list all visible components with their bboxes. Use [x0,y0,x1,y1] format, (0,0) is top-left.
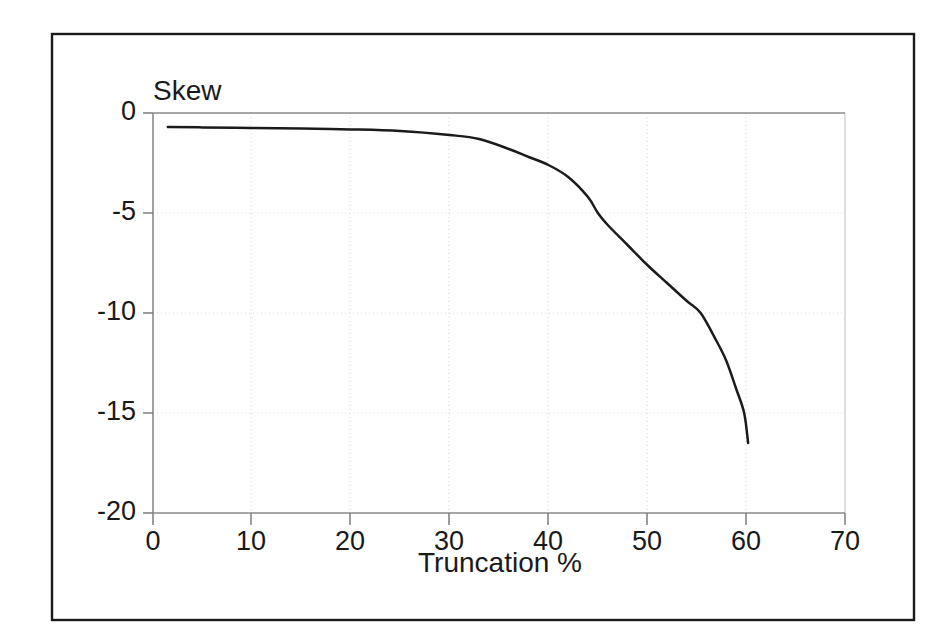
y-axis-ticks [143,113,153,513]
x-tick-label-50: 50 [632,526,662,556]
chart-figure: 0 -5 -10 -15 -20 0 10 20 30 40 50 60 70 … [0,0,952,643]
x-axis-title: Truncation % [418,547,582,578]
x-tick-label-20: 20 [335,526,365,556]
gridlines [153,213,845,413]
x-tick-label-60: 60 [731,526,761,556]
y-tick-labels: 0 -5 -10 -15 -20 [97,96,136,526]
y-tick-label-0: 0 [121,96,136,126]
x-axis-ticks [153,513,845,525]
y-axis-title: Skew [153,75,222,106]
x-tick-label-10: 10 [236,526,266,556]
data-series-line [168,127,748,443]
y-tick-label-minus15: -15 [97,396,136,426]
x-tick-label-0: 0 [145,526,160,556]
x-tick-label-70: 70 [830,526,860,556]
figure-frame [52,34,914,620]
y-tick-label-minus20: -20 [97,496,136,526]
y-tick-label-minus5: -5 [112,196,136,226]
y-tick-label-minus10: -10 [97,296,136,326]
chart-svg: 0 -5 -10 -15 -20 0 10 20 30 40 50 60 70 … [0,0,952,643]
